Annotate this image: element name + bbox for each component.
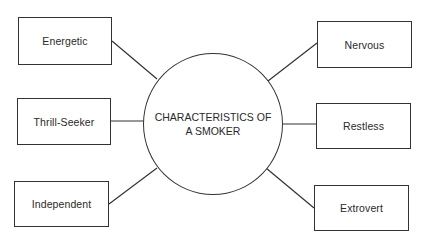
center-title-line1: CHARACTERISTICS OF [155, 110, 272, 124]
node-label: Restless [343, 120, 384, 132]
node-label: Energetic [42, 35, 87, 47]
center-node-characteristics-of-a-smoker: CHARACTERISTICS OF A SMOKER [143, 53, 283, 195]
node-label: Thrill-Seeker [34, 116, 95, 128]
node-energetic: Energetic [18, 17, 112, 65]
node-label: Independent [32, 198, 92, 210]
connector-extrovert [266, 168, 314, 208]
node-label: Nervous [345, 39, 385, 51]
center-title-line2: A SMOKER [186, 124, 241, 138]
node-thrill-seeker: Thrill-Seeker [17, 98, 111, 145]
node-independent: Independent [14, 181, 109, 227]
node-extrovert: Extrovert [314, 185, 409, 231]
connector-independent [109, 168, 157, 204]
connector-nervous [268, 43, 317, 81]
node-nervous: Nervous [317, 21, 412, 68]
node-label: Extrovert [340, 202, 383, 214]
node-restless: Restless [316, 103, 411, 149]
connector-energetic [112, 41, 157, 79]
